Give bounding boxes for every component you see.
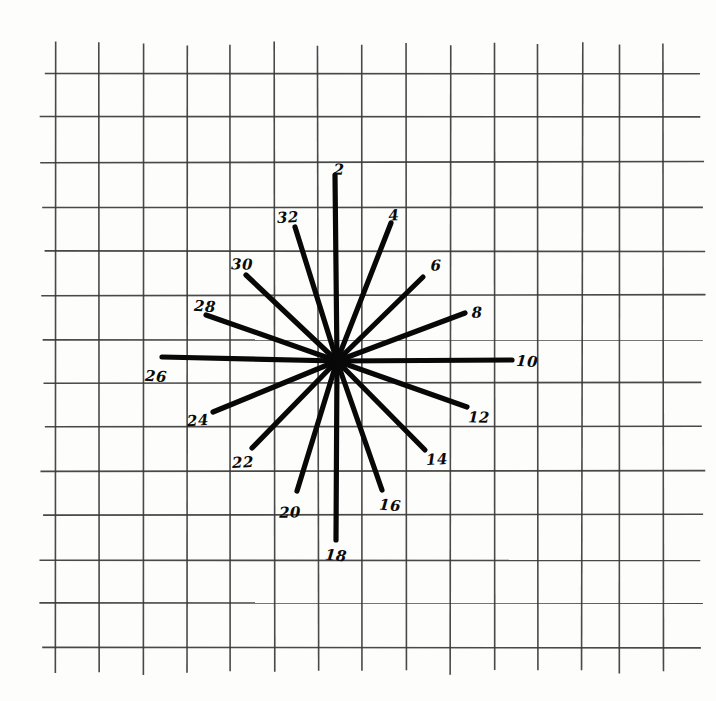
ray-label: 4 [388,208,400,224]
star-ray [162,357,337,361]
grid-line-horizontal [41,161,703,162]
grid-line-horizontal [42,295,705,296]
grid-line-horizontal [45,251,704,252]
star-ray [337,360,512,361]
ray-label: 32 [277,210,300,226]
star-ray [337,277,423,361]
ray-label: 14 [426,452,449,468]
ray-label: 6 [430,258,441,273]
grid-line-vertical [663,44,664,670]
ray-label: 2 [333,162,344,177]
ray-label: 16 [378,498,401,515]
ray-label: 18 [324,547,347,564]
ray-label: 30 [231,257,253,272]
ray-label: 12 [468,410,490,426]
grid-line-vertical [274,42,275,670]
grid-line-horizontal [44,382,700,383]
figure-canvas [0,0,716,701]
ray-label: 28 [194,299,217,315]
star-ray [337,313,465,361]
star-ray [336,361,337,540]
graph-paper-figure: 2468101214161820222426283032 [0,0,716,701]
star-center-hub [331,355,343,367]
ray-label: 8 [471,305,482,320]
grid-line-horizontal [44,514,702,515]
star-ray [335,175,337,361]
ray-label: 26 [145,369,168,385]
ray-label: 22 [232,455,255,471]
ray-label: 10 [516,354,539,371]
ray-label: 24 [187,413,210,429]
grid-line-vertical [582,43,583,669]
ray-label: 20 [279,505,301,520]
